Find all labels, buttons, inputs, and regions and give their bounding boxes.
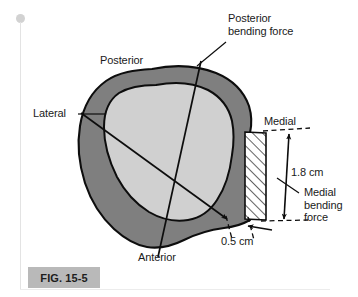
label-dimension-horizontal: 0.5 cm bbox=[221, 235, 253, 248]
figure-caption-box: FIG. 15-5 bbox=[28, 267, 100, 288]
figure-page: Posterior bending force Posterior Latera… bbox=[0, 0, 358, 297]
posterior-bending-force-leader-line bbox=[197, 42, 226, 66]
label-medial: Medial bbox=[264, 115, 296, 128]
vertical-dimension-arrow bbox=[284, 134, 289, 219]
label-anterior: Anterior bbox=[138, 251, 176, 264]
bone-cross-section-diagram bbox=[0, 0, 358, 297]
medial-cortical-hatched-block bbox=[245, 132, 266, 220]
medial-bending-force-leader-line bbox=[277, 178, 299, 193]
figure-caption-text: FIG. 15-5 bbox=[40, 272, 87, 284]
label-medial-bending-force: Medial bending force bbox=[304, 186, 342, 224]
label-dimension-vertical: 1.8 cm bbox=[291, 166, 323, 179]
label-posterior-bending-force: Posterior bending force bbox=[228, 12, 293, 37]
label-lateral: Lateral bbox=[33, 107, 66, 120]
label-posterior: Posterior bbox=[100, 54, 143, 67]
